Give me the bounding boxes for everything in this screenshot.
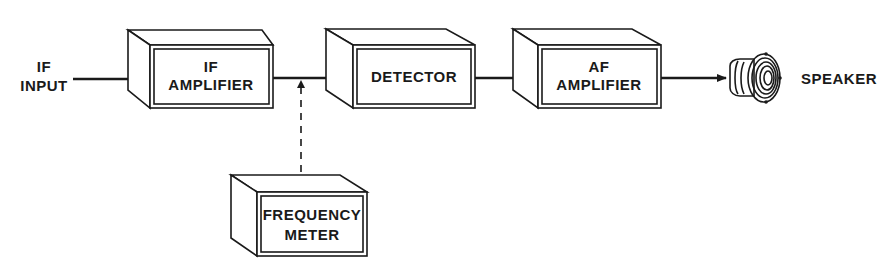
af-amplifier-block: AF AMPLIFIER	[513, 29, 661, 108]
svg-text:IF: IF	[37, 58, 51, 75]
af-amplifier-label-1: AF	[589, 58, 610, 75]
frequency-meter-label-2: METER	[285, 226, 340, 243]
svg-text:INPUT: INPUT	[20, 77, 68, 94]
detector-label: DETECTOR	[371, 68, 457, 85]
if-amplifier-label-2: AMPLIFIER	[168, 76, 253, 93]
speaker-icon	[730, 52, 782, 104]
dashed-arrowhead-icon	[297, 80, 305, 88]
frequency-meter-block: FREQUENCY METER	[231, 175, 367, 256]
if-input-label: IF INPUT	[20, 58, 68, 94]
block-diagram: IF INPUT IF AMPLIFIER DETECTOR AF AMPLIF…	[0, 0, 892, 275]
af-amplifier-label-2: AMPLIFIER	[556, 76, 641, 93]
speaker-label: SPEAKER	[801, 70, 877, 87]
if-amplifier-block: IF AMPLIFIER	[128, 30, 273, 108]
frequency-meter-label-1: FREQUENCY	[263, 206, 362, 223]
detector-block: DETECTOR	[326, 29, 475, 108]
if-amplifier-label-1: IF	[204, 58, 218, 75]
